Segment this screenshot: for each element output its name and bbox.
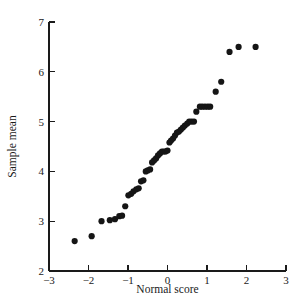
data-point bbox=[119, 213, 125, 219]
data-point bbox=[98, 218, 104, 224]
y-axis-tick-label: 7 bbox=[39, 16, 45, 28]
x-axis-tick-label: −3 bbox=[43, 274, 55, 286]
y-axis-tick-label: 4 bbox=[39, 165, 45, 177]
data-point bbox=[252, 44, 258, 50]
data-point bbox=[122, 203, 128, 209]
x-axis-tick-label: 3 bbox=[283, 274, 289, 286]
data-point bbox=[226, 49, 232, 55]
y-axis-tick-label: 6 bbox=[39, 66, 45, 78]
data-point bbox=[236, 44, 242, 50]
data-point bbox=[136, 185, 142, 191]
plot-axes bbox=[49, 22, 286, 271]
data-point bbox=[140, 177, 146, 183]
x-axis-tick-label: −1 bbox=[122, 274, 134, 286]
data-point bbox=[147, 166, 153, 172]
x-axis-tick-label: −2 bbox=[83, 274, 95, 286]
x-axis-tick-label: 1 bbox=[204, 274, 210, 286]
data-point bbox=[218, 79, 224, 85]
data-point bbox=[107, 217, 113, 223]
y-axis-title: Sample mean bbox=[6, 115, 19, 178]
plot-ticks bbox=[49, 22, 286, 271]
data-point bbox=[213, 89, 219, 95]
x-axis-tick-label: 2 bbox=[244, 274, 250, 286]
data-point bbox=[191, 119, 197, 125]
data-point bbox=[207, 104, 213, 110]
qq-plot-figure: 234567−3−2−10123 Normal score Sample mea… bbox=[0, 0, 307, 304]
data-point bbox=[89, 233, 95, 239]
x-axis-title: Normal score bbox=[136, 283, 198, 295]
data-point bbox=[72, 238, 78, 244]
y-axis-tick-label: 5 bbox=[39, 116, 45, 128]
scatter-plot-canvas: 234567−3−2−10123 Normal score Sample mea… bbox=[0, 0, 307, 304]
y-axis-tick-label: 3 bbox=[39, 215, 45, 227]
data-point bbox=[164, 147, 170, 153]
data-point-series bbox=[72, 44, 259, 244]
data-point bbox=[193, 109, 199, 115]
